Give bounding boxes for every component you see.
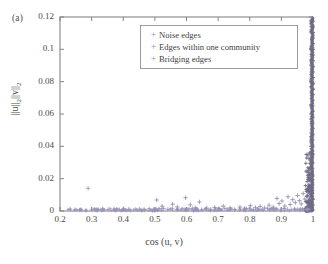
x-tick-label: 0.6 (172, 214, 202, 224)
x-axis-title: cos (u, v) (0, 236, 328, 247)
legend-entry-edges-within-one-community: +Edges within one community (148, 42, 260, 52)
x-tick-label: 0.3 (77, 214, 107, 224)
x-tick-label: 0.7 (203, 214, 233, 224)
y-tick-label: 0.04 (20, 140, 54, 150)
y-tick-label: 0.1 (20, 43, 54, 53)
legend-marker-icon: + (148, 54, 159, 64)
y-tick-label: 0.02 (20, 173, 54, 183)
legend-entry-bridging-edges: +Bridging edges (148, 54, 211, 64)
legend-marker-icon: + (148, 30, 159, 40)
y-tick-label: 0 (20, 205, 54, 215)
legend-label: Edges within one community (159, 42, 260, 52)
x-tick-label: 0.2 (45, 214, 75, 224)
legend-marker-icon: + (148, 42, 159, 52)
legend: +Noise edges +Edges within one community… (140, 25, 298, 69)
y-tick-label: 0.06 (20, 108, 54, 118)
scatter-figure: (a) cos (u, v) ||u||2||v||2 +Noise edges… (0, 0, 328, 264)
legend-label: Noise edges (159, 30, 201, 40)
x-tick-label: 0.4 (108, 214, 138, 224)
x-tick-label: 0.9 (266, 214, 296, 224)
y-tick-label: 0.12 (20, 11, 54, 21)
x-tick-label: 0.5 (140, 214, 170, 224)
legend-entry-noise-edges: +Noise edges (148, 30, 201, 40)
y-tick-label: 0.08 (20, 76, 54, 86)
x-tick-label: 0.8 (235, 214, 265, 224)
legend-label: Bridging edges (159, 54, 211, 64)
x-tick-label: 1 (298, 214, 328, 224)
